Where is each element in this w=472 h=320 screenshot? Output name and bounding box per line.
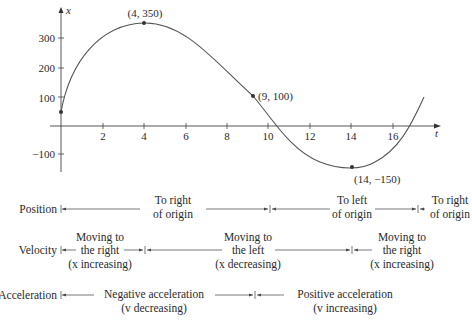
annotation-max: (4, 350) xyxy=(128,7,163,20)
t-tick-label: 6 xyxy=(183,130,189,142)
acceleration-seg2-line2: (v increasing) xyxy=(313,302,377,315)
t-tick-label: 4 xyxy=(141,130,147,142)
y-axis-arrow-icon xyxy=(59,7,64,13)
position-seg3-line2: of origin xyxy=(430,208,470,221)
position-seg3-line1: To right xyxy=(432,194,469,207)
data-point-max xyxy=(142,21,146,25)
velocity-seg3-line1: Moving to xyxy=(378,231,426,244)
data-point-inflection xyxy=(251,94,255,98)
velocity-seg3-line3: (x increasing) xyxy=(370,258,434,271)
position-seg2-line1: To left xyxy=(337,194,368,206)
velocity-seg3-line2: the right xyxy=(383,244,422,257)
y-tick-label: −100 xyxy=(32,148,55,160)
acceleration-row-label: Acceleration xyxy=(0,289,57,301)
annotation-inflection: (9, 100) xyxy=(258,90,293,103)
velocity-seg1-line1: Moving to xyxy=(76,231,124,244)
annotation-min: (14, −150) xyxy=(354,173,401,186)
position-seg1-line1: To right xyxy=(155,194,192,207)
t-tick-label: 8 xyxy=(224,130,230,142)
position-seg1-line2: of origin xyxy=(153,208,193,221)
position-graph xyxy=(50,7,441,172)
acceleration-seg1-line1: Negative acceleration xyxy=(104,288,204,301)
t-tick-label: 2 xyxy=(100,130,106,142)
data-point-start xyxy=(59,110,63,114)
y-axis-label: x xyxy=(65,4,71,16)
t-tick-label: 12 xyxy=(305,130,316,142)
velocity-seg2-line1: Moving to xyxy=(224,231,272,244)
position-seg2-line2: of origin xyxy=(332,208,372,221)
velocity-seg2-line2: the left xyxy=(232,244,265,256)
t-tick-label: 14 xyxy=(346,130,358,142)
y-tick-label: 200 xyxy=(39,62,56,74)
y-tick-label: 100 xyxy=(39,92,56,104)
velocity-seg2-line3: (x decreasing) xyxy=(215,258,281,271)
y-tick-label: 300 xyxy=(39,32,56,44)
acceleration-seg1-line2: (v decreasing) xyxy=(121,302,187,315)
t-tick-label: 10 xyxy=(263,130,275,142)
t-axis-label: t xyxy=(435,127,439,139)
data-point-min xyxy=(350,165,354,169)
position-row-label: Position xyxy=(19,203,57,215)
t-tick-label: 16 xyxy=(388,130,400,142)
motion-diagram: x t 300 200 100 −100 2 4 6 8 10 12 14 16… xyxy=(0,0,472,320)
velocity-row-label: Velocity xyxy=(19,244,58,257)
acceleration-seg2-line1: Positive acceleration xyxy=(297,288,393,300)
position-curve xyxy=(61,23,424,168)
velocity-seg1-line3: (x increasing) xyxy=(68,258,132,271)
velocity-seg1-line2: the right xyxy=(81,244,120,257)
